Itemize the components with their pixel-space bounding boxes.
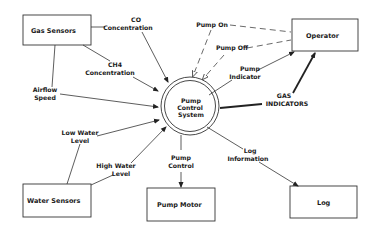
svg-text:Level: Level [71,137,90,144]
flow-gas-indicators[interactable]: GAS INDICATORS [220,53,315,108]
water-sensors-label: Water Sensors [27,197,81,205]
process-pump-control-system[interactable]: Pump Control System [161,77,219,135]
svg-text:Pump: Pump [240,65,260,73]
svg-text:Pump Off: Pump Off [216,44,249,52]
gas-sensors-label: Gas Sensors [31,27,76,35]
svg-text:GAS: GAS [277,92,291,99]
svg-text:Pump: Pump [171,154,191,162]
svg-text:Low Water: Low Water [61,129,99,136]
operator-label: Operator [306,32,340,40]
flow-pump-indicator[interactable]: Pump Indicator [209,52,294,95]
flow-high-water-level[interactable]: High Water Level [91,127,166,185]
svg-text:Airflow: Airflow [33,86,58,93]
pump-motor-label: Pump Motor [157,201,203,209]
flow-airflow-speed[interactable]: Airflow Speed [33,45,158,107]
svg-text:CH4: CH4 [108,61,123,68]
flow-pump-control[interactable]: Pump Control [168,135,194,187]
svg-text:Pump On: Pump On [196,21,228,29]
entity-pump-motor[interactable]: Pump Motor [147,188,215,221]
entity-water-sensors[interactable]: Water Sensors [23,184,91,217]
svg-text:Speed: Speed [34,94,56,102]
process-label-line3: System [178,111,204,119]
svg-text:Concentration: Concentration [103,24,152,31]
entity-log[interactable]: Log [290,186,357,218]
svg-text:Log: Log [244,147,257,155]
process-label-line2: Control [177,104,203,111]
svg-text:INDICATORS: INDICATORS [266,100,308,107]
flow-low-water-level[interactable]: Low Water Level [61,120,159,184]
log-label: Log [317,199,331,207]
entity-gas-sensors[interactable]: Gas Sensors [23,15,91,45]
entity-operator[interactable]: Operator [292,19,358,51]
svg-text:Level: Level [112,170,131,177]
svg-text:CO: CO [131,16,141,23]
flow-ch4-concentration[interactable]: CH4 Concentration [83,45,158,91]
svg-text:Concentration: Concentration [85,69,134,76]
svg-text:High Water: High Water [96,162,136,170]
svg-text:Information: Information [227,155,268,162]
flow-log-information[interactable]: Log Information [207,127,298,186]
context-diagram: Pump Control System Gas Sensors Operator… [0,0,380,234]
svg-text:Control: Control [168,162,194,169]
svg-text:Indicator: Indicator [229,73,261,80]
